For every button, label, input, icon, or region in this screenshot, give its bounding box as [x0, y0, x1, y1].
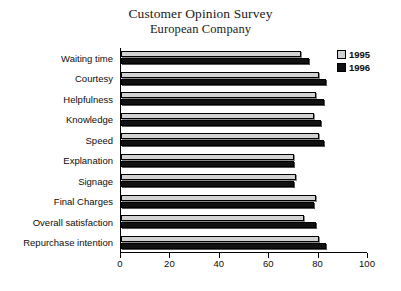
legend-item-1996: 1996 — [337, 62, 393, 73]
category-label: Helpfulness — [0, 89, 117, 110]
bar-1995-overall-satisfaction — [121, 215, 304, 221]
category-label: Knowledge — [0, 110, 117, 131]
bar-1995-knowledge — [121, 113, 314, 119]
chart-title-block: Customer Opinion Survey European Company — [0, 6, 401, 37]
x-tick-label: 80 — [312, 258, 323, 269]
legend-item-1995: 1995 — [337, 49, 393, 60]
plot-area — [120, 48, 367, 253]
bar-1995-final-charges — [121, 195, 316, 201]
bar-row — [121, 130, 368, 151]
category-label: Final Charges — [0, 192, 117, 213]
bar-row — [121, 212, 368, 233]
bar-rows — [121, 48, 368, 253]
bar-1996-signage — [121, 181, 294, 187]
bar-1995-signage — [121, 174, 296, 180]
page-title: Customer Opinion Survey — [0, 6, 401, 22]
bar-row — [121, 192, 368, 213]
bar-1996-explanation — [121, 161, 294, 167]
x-tick-label: 20 — [164, 258, 175, 269]
category-label: Speed — [0, 130, 117, 151]
x-axis-tick-labels: 020406080100 — [0, 258, 401, 272]
bar-1996-repurchase-intention — [121, 243, 326, 249]
category-axis-labels: Waiting timeCourtesyHelpfulnessKnowledge… — [0, 48, 117, 253]
chart-legend: 19951996 — [337, 49, 393, 75]
category-label: Explanation — [0, 151, 117, 172]
chart-page: Customer Opinion Survey European Company… — [0, 0, 401, 291]
category-label: Courtesy — [0, 69, 117, 90]
bar-row — [121, 171, 368, 192]
legend-label: 1995 — [349, 50, 370, 60]
bar-1995-helpfulness — [121, 92, 316, 98]
bar-row — [121, 48, 368, 69]
x-tick-label: 40 — [214, 258, 225, 269]
category-label: Overall satisfaction — [0, 212, 117, 233]
x-tick-label: 60 — [263, 258, 274, 269]
x-tick-label: 100 — [359, 258, 375, 269]
bar-row — [121, 69, 368, 90]
bar-row — [121, 89, 368, 110]
bar-row — [121, 233, 368, 254]
bar-1995-speed — [121, 133, 319, 139]
bar-1996-knowledge — [121, 120, 321, 126]
category-label: Repurchase intention — [0, 233, 117, 254]
category-label: Signage — [0, 171, 117, 192]
bar-1996-overall-satisfaction — [121, 222, 316, 228]
bar-1996-speed — [121, 140, 324, 146]
bar-1996-waiting-time — [121, 58, 309, 64]
legend-swatch-icon — [337, 63, 346, 72]
bar-1996-courtesy — [121, 79, 326, 85]
bar-row — [121, 110, 368, 131]
bar-1995-waiting-time — [121, 51, 301, 57]
bar-1995-explanation — [121, 154, 294, 160]
bar-1995-repurchase-intention — [121, 236, 319, 242]
legend-swatch-icon — [337, 50, 346, 59]
bar-1995-courtesy — [121, 72, 319, 78]
x-tick-label: 0 — [117, 258, 122, 269]
legend-label: 1996 — [349, 63, 370, 73]
page-subtitle: European Company — [0, 22, 401, 37]
bar-1996-final-charges — [121, 202, 314, 208]
category-label: Waiting time — [0, 48, 117, 69]
bar-1996-helpfulness — [121, 99, 324, 105]
bar-row — [121, 151, 368, 172]
